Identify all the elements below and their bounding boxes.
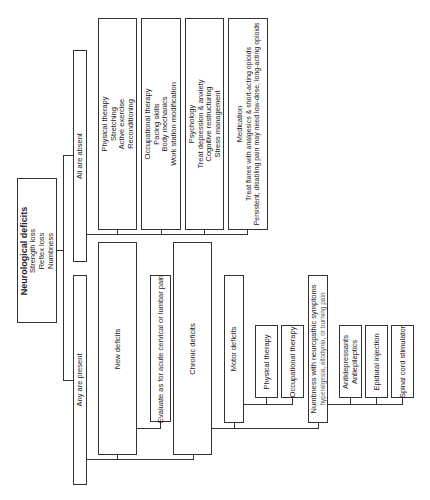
node-label: Motor deficits [230, 327, 239, 372]
connector [63, 155, 64, 380]
node-label: New deficits [113, 328, 122, 368]
node-line: Persistent, disabling pain may need low-… [252, 23, 260, 226]
node-label: Epidural injection [372, 333, 381, 390]
node-label: Spinal cord stimulator [398, 325, 407, 397]
connector [376, 398, 377, 405]
node-all-absent: All are absent [73, 50, 87, 262]
node-spinal-cord-stimulator: Spinal cord stimulator [391, 325, 414, 398]
node-sublabel: hyperalgesia, allodynia, or burning pain [319, 285, 326, 414]
connector [117, 455, 118, 460]
connector [292, 398, 293, 405]
node-label: Evaluate as for acute cervical or lumbar… [156, 275, 165, 423]
connector [328, 404, 403, 405]
connector [204, 230, 205, 235]
node-line: Antiepileptics [351, 335, 360, 389]
node-label: Chronic deficits [188, 323, 197, 374]
connector [63, 380, 73, 381]
node-title: Medication [236, 23, 245, 226]
root-line: Numbness [46, 206, 55, 295]
node-line: Treat flares with analgesics & short-act… [244, 23, 252, 226]
connector [244, 404, 293, 405]
connector [160, 422, 161, 429]
node-numbness-neuropathic: Numbness with neuropathic symptoms hyper… [308, 275, 328, 423]
node-line: Stress management [213, 80, 222, 169]
connector [137, 428, 161, 429]
connector [87, 459, 194, 460]
node-chronic-deficits: Chronic deficits [173, 242, 212, 455]
connector [247, 230, 248, 235]
connector [266, 398, 267, 405]
node-motor-occupational-therapy: Occupational therapy [281, 325, 304, 398]
node-psychology: Psychology Treat depression & anxiety Co… [185, 18, 224, 230]
node-label: Numbness with neuropathic symptoms [310, 285, 319, 414]
connector [90, 234, 248, 235]
connector [193, 455, 194, 460]
node-label: All are absent [76, 133, 85, 179]
node-line: Work station modification [170, 82, 179, 166]
connector [402, 398, 403, 405]
node-label: Any are present [76, 354, 85, 407]
node-new-deficits: New deficits [98, 242, 137, 455]
connector [234, 423, 235, 429]
connector [318, 423, 319, 429]
node-line: Antidepressants [342, 335, 351, 389]
node-title: Physical therapy [100, 96, 109, 151]
node-evaluate-acute: Evaluate as for acute cervical or lumbar… [150, 275, 171, 422]
node-motor-deficits: Motor deficits [224, 275, 244, 423]
node-physical-therapy: Physical therapy Stretching Active exerc… [98, 18, 137, 230]
node-medication: Medication Treat flares with analgesics … [228, 18, 268, 230]
connector [63, 155, 73, 156]
node-label: Physical therapy [262, 334, 271, 389]
connector [212, 428, 319, 429]
node-any-present: Any are present [73, 275, 87, 485]
node-occupational-therapy: Occupational therapy Pacing skills Body … [141, 18, 181, 230]
node-line: Reconditioning [126, 96, 135, 151]
node-antidepressants-antiepileptics: Antidepressants Antiepileptics [339, 325, 362, 398]
connector [117, 230, 118, 235]
node-title: Psychology [187, 80, 196, 169]
node-epidural-injection: Epidural injection [365, 325, 388, 398]
connector [350, 398, 351, 405]
node-motor-physical-therapy: Physical therapy [255, 325, 278, 398]
connector [161, 230, 162, 235]
root-node-neurological-deficits: Neurological deficits Strength loss Refl… [17, 178, 57, 323]
node-label: Occupational therapy [288, 326, 297, 397]
